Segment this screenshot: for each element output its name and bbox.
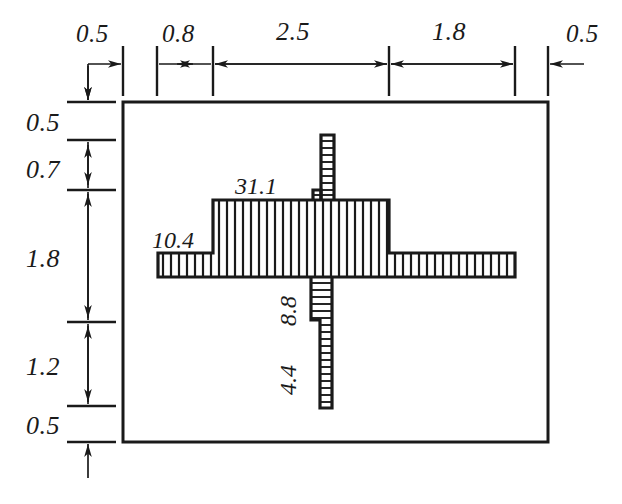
dim-left-4-label: 0.5 (26, 411, 60, 440)
dim-top-1-label: 0.8 (162, 20, 195, 47)
label-10-4: 10.4 (152, 227, 194, 253)
label-8-8: 8.8 (275, 296, 301, 326)
dim-left-1-label: 0.7 (26, 155, 61, 184)
dim-left-3-label: 1.2 (26, 352, 60, 381)
hatch-body (219, 197, 387, 281)
dim-top-4-label: 0.5 (566, 20, 599, 47)
dim-left-2-label: 1.8 (26, 244, 60, 273)
dim-top-3-label: 1.8 (432, 17, 466, 46)
top-dimension-chain: 0.5 0.8 2.5 1.8 0.5 (76, 17, 599, 100)
label-4-4: 4.4 (275, 365, 301, 395)
dim-top-2-label: 2.5 (276, 17, 310, 46)
dim-left-0-label: 0.5 (26, 108, 60, 137)
drawing-canvas: 0.5 0.8 2.5 1.8 0.5 (0, 0, 622, 504)
left-dimension-chain: 0.5 0.7 1.8 1.2 0.5 (26, 66, 116, 478)
part-cross-section (158, 135, 515, 408)
label-31-1: 31.1 (234, 173, 277, 199)
dim-top-0-label: 0.5 (76, 20, 109, 47)
